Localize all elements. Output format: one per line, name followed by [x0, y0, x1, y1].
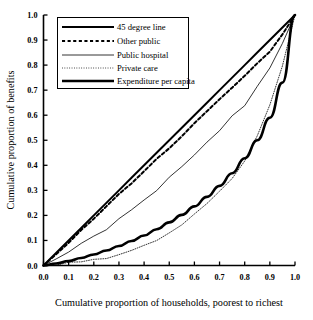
- y-tick-label: 0.0: [27, 262, 37, 271]
- x-axis-label: Cumulative proportion of households, poo…: [55, 297, 283, 308]
- x-tick-label: 0.5: [164, 273, 174, 282]
- lorenz-curve-figure: 0.00.10.20.30.40.50.60.70.80.91.0 0.00.1…: [0, 0, 313, 320]
- x-axis-tick-labels: 0.00.10.20.30.40.50.60.70.80.91.0: [38, 273, 300, 282]
- x-tick-label: 0.7: [214, 273, 224, 282]
- x-tick-label: 0.0: [38, 273, 48, 282]
- x-tick-label: 0.1: [64, 273, 74, 282]
- x-tick-label: 0.4: [139, 273, 149, 282]
- legend-label-other-public: Other public: [117, 36, 160, 46]
- chart-svg: 0.00.10.20.30.40.50.60.70.80.91.0 0.00.1…: [0, 0, 313, 320]
- y-axis-label: Cumulative proportion of benefits: [5, 71, 16, 210]
- legend-label-45-degree-line: 45 degree line: [117, 22, 166, 32]
- legend-label-private-care: Private care: [117, 63, 158, 73]
- y-tick-label: 0.7: [27, 86, 37, 95]
- x-tick-label: 0.9: [265, 273, 275, 282]
- x-tick-label: 0.2: [89, 273, 99, 282]
- x-tick-label: 0.8: [240, 273, 250, 282]
- y-tick-label: 0.9: [27, 36, 37, 45]
- y-tick-label: 1.0: [27, 11, 37, 20]
- legend-label-public-hospital: Public hospital: [117, 50, 169, 60]
- x-tick-label: 1.0: [290, 273, 300, 282]
- legend: 45 degree lineOther publicPublic hospita…: [58, 18, 195, 89]
- x-tick-label: 0.6: [189, 273, 199, 282]
- y-axis-tick-labels: 0.00.10.20.30.40.50.60.70.80.91.0: [27, 11, 37, 271]
- y-tick-label: 0.5: [27, 136, 37, 145]
- y-tick-label: 0.4: [27, 161, 37, 170]
- y-tick-label: 0.2: [27, 211, 37, 220]
- y-tick-label: 0.6: [27, 111, 37, 120]
- y-tick-label: 0.8: [27, 61, 37, 70]
- y-tick-label: 0.1: [27, 236, 37, 245]
- legend-label-expenditure-per-capita: Expenditure per capita: [117, 76, 195, 86]
- y-tick-label: 0.3: [27, 186, 37, 195]
- x-tick-label: 0.3: [114, 273, 124, 282]
